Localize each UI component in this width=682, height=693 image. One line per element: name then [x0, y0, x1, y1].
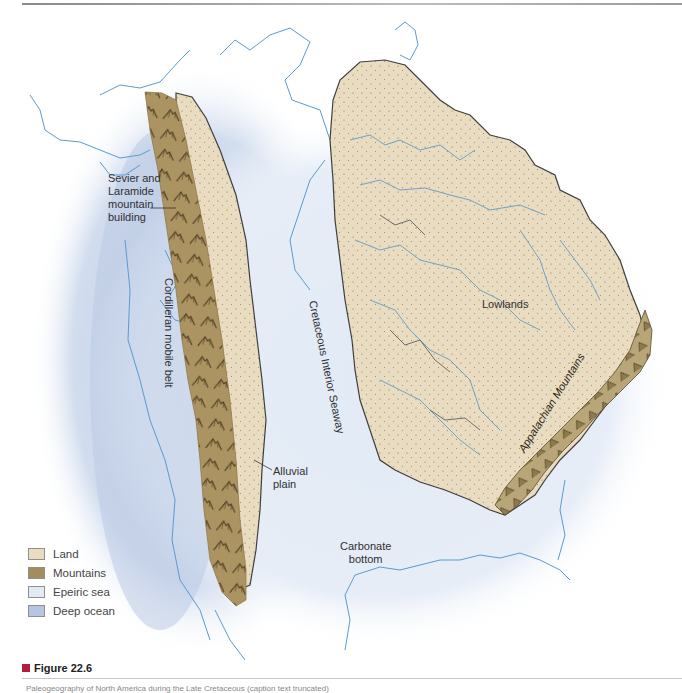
label-carbonate-bottom: Carbonate bottom — [340, 540, 391, 566]
figure-marker-icon — [22, 664, 30, 672]
legend-item-deep-ocean: Deep ocean — [28, 602, 115, 620]
label-line: Sevier and — [108, 172, 161, 185]
label-line: building — [108, 211, 161, 224]
label-line: Carbonate — [340, 540, 391, 553]
legend: Land Mountains Epeiric sea Deep ocean — [28, 545, 115, 621]
figure-title: Figure 22.6 — [22, 662, 92, 674]
label-line: plain — [273, 478, 308, 491]
label-line: mountain — [108, 198, 161, 211]
deep-ocean-swatch-icon — [28, 605, 45, 617]
legend-label: Mountains — [53, 567, 106, 579]
label-cordilleran-mobile-belt: Cordilleran mobile belt — [162, 278, 175, 387]
legend-item-epeiric-sea: Epeiric sea — [28, 583, 115, 601]
land-swatch-icon — [28, 548, 45, 560]
label-alluvial-plain: Alluvial plain — [273, 465, 308, 491]
bottom-rule — [22, 678, 682, 679]
label-line: bottom — [340, 553, 391, 566]
legend-label: Epeiric sea — [53, 586, 110, 598]
mountains-swatch-icon — [28, 567, 45, 579]
legend-item-land: Land — [28, 545, 115, 563]
figure-caption: Paleogeography of North America during t… — [26, 684, 329, 693]
figure-title-text: Figure 22.6 — [34, 662, 92, 674]
epeiric-sea-swatch-icon — [28, 586, 45, 598]
legend-label: Deep ocean — [53, 605, 115, 617]
label-sevier-laramide: Sevier and Laramide mountain building — [108, 172, 161, 224]
label-line: Alluvial — [273, 465, 308, 478]
legend-label: Land — [53, 548, 79, 560]
legend-item-mountains: Mountains — [28, 564, 115, 582]
label-lowlands: Lowlands — [482, 298, 528, 311]
label-line: Laramide — [108, 185, 161, 198]
